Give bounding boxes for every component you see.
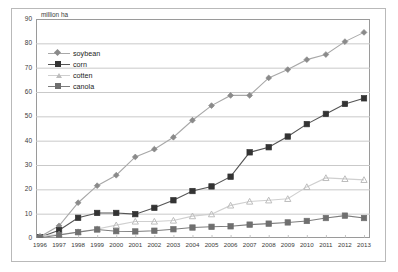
legend-marker-square-icon	[55, 61, 61, 67]
data-point-marker	[75, 229, 80, 234]
legend-label: corn	[71, 60, 87, 69]
y-tick-label: 90	[12, 15, 32, 22]
data-point-marker	[56, 232, 61, 237]
y-tick-label: 40	[12, 137, 32, 144]
data-point-marker	[361, 29, 367, 35]
legend-key-canola	[47, 81, 71, 92]
data-point-marker	[94, 227, 99, 232]
series-cotten	[37, 175, 367, 238]
data-point-marker	[266, 221, 271, 226]
data-point-marker	[209, 224, 214, 229]
data-point-marker	[114, 210, 119, 215]
data-point-marker	[75, 215, 80, 220]
legend-key-cotten	[47, 70, 71, 81]
data-point-marker	[190, 225, 195, 230]
y-tick-label: 80	[12, 39, 32, 46]
legend-marker-diamond-icon	[54, 49, 61, 56]
legend-item-canola[interactable]: canola	[47, 81, 119, 92]
data-point-marker	[133, 211, 138, 216]
data-point-marker	[323, 111, 328, 116]
data-point-marker	[247, 150, 252, 155]
y-axis-unit-label: million ha	[41, 11, 68, 18]
legend-label: cotten	[71, 71, 93, 80]
data-point-marker	[152, 228, 157, 233]
data-point-marker	[342, 213, 347, 218]
y-tick-label: 10	[12, 210, 32, 217]
data-point-marker	[151, 146, 157, 152]
legend-item-soybean[interactable]: soybean	[47, 48, 119, 59]
x-tick-marks	[41, 235, 365, 238]
legend-marker-square-icon	[55, 83, 61, 89]
y-tick-label: 70	[12, 64, 32, 71]
series-line	[40, 216, 364, 238]
data-point-marker	[285, 220, 290, 225]
x-tick-label: 2013	[351, 241, 377, 248]
legend-marker-triangle-icon	[56, 73, 62, 78]
series-line	[40, 98, 364, 237]
series-canola	[37, 213, 366, 238]
y-tick-label: 60	[12, 88, 32, 95]
data-point-marker	[228, 93, 234, 99]
data-point-marker	[342, 101, 347, 106]
legend-label: canola	[71, 82, 94, 91]
legend-item-cotten[interactable]: cotten	[47, 70, 119, 81]
legend-item-corn[interactable]: corn	[47, 59, 119, 70]
y-tick-label: 0	[12, 234, 32, 241]
y-tick-label: 50	[12, 112, 32, 119]
data-point-marker	[152, 205, 157, 210]
y-tick-label: 30	[12, 161, 32, 168]
data-point-marker	[228, 224, 233, 229]
data-point-marker	[171, 227, 176, 232]
legend-key-soybean	[47, 48, 71, 59]
data-point-marker	[37, 235, 42, 238]
data-point-marker	[171, 198, 176, 203]
data-point-marker	[114, 228, 119, 233]
y-tick-label: 20	[12, 185, 32, 192]
chart-legend: soybeancorncottencanola	[47, 48, 119, 92]
legend-key-corn	[47, 59, 71, 70]
chart-figure: million ha 0102030405060708090 199619971…	[0, 0, 398, 272]
data-point-marker	[361, 96, 366, 101]
data-point-marker	[361, 215, 366, 220]
data-point-marker	[228, 174, 233, 179]
data-point-marker	[304, 57, 310, 63]
data-point-marker	[94, 210, 99, 215]
data-point-marker	[323, 215, 328, 220]
data-point-marker	[304, 121, 309, 126]
data-point-marker	[133, 229, 138, 234]
data-point-marker	[285, 134, 290, 139]
data-point-marker	[304, 218, 309, 223]
data-point-marker	[266, 145, 271, 150]
data-point-marker	[209, 184, 214, 189]
data-point-marker	[190, 188, 195, 193]
data-point-marker	[285, 67, 291, 73]
legend-label: soybean	[71, 49, 100, 58]
data-point-marker	[247, 222, 252, 227]
